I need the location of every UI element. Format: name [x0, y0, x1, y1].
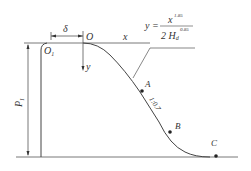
y-arrow-icon	[82, 66, 85, 71]
point-a-label: A	[144, 79, 151, 89]
crest-profile	[83, 43, 210, 157]
point-b-marker	[168, 130, 172, 134]
y-axis-label: y	[85, 61, 91, 72]
arrow-left-icon	[51, 35, 56, 38]
upstream-face	[41, 43, 47, 157]
delta-label: δ	[63, 23, 68, 34]
numerator-exponent: 1.85	[174, 13, 183, 18]
equation-numerator: x	[167, 14, 173, 25]
origin1-label: O1	[44, 45, 54, 57]
equation-leader	[133, 48, 195, 78]
slope-label: 1:0.7	[147, 96, 162, 113]
point-a-marker	[140, 89, 144, 93]
equation-lhs: y =	[144, 20, 159, 31]
weir-profile-diagram: δ O O1 x y P1 A B C 1:0.7 y = x 1.85 2 H…	[0, 0, 251, 171]
x-axis-label: x	[122, 31, 128, 42]
denominator-exponent: 0.85	[180, 27, 189, 32]
equation-denominator: 2 Hd	[161, 30, 180, 41]
point-b-label: B	[175, 121, 181, 131]
arrow-down-icon	[27, 151, 30, 156]
origin-label: O	[86, 31, 93, 42]
arrow-up-icon	[27, 44, 30, 49]
point-c-marker	[214, 154, 218, 158]
point-c-label: C	[211, 138, 218, 148]
arrow-right-icon	[78, 35, 83, 38]
height-label: P1	[13, 98, 25, 108]
